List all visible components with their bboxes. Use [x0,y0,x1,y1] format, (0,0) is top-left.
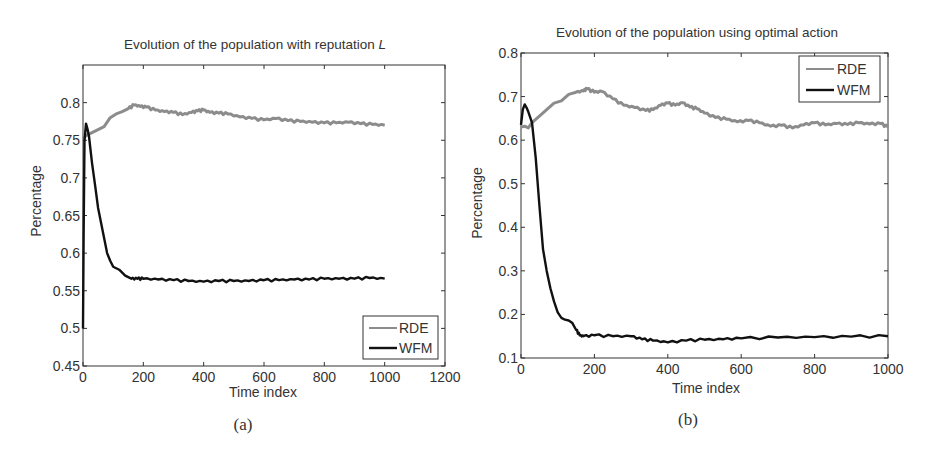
chart-a-legend-rde-label: RDE [399,320,429,336]
y-tick-label: 0.7 [499,89,519,105]
y-tick-label: 0.65 [53,208,80,224]
x-tick-label: 0 [517,361,525,377]
chart-a-ylabel: Percentage [28,165,44,237]
x-tick-label: 1000 [872,361,903,377]
x-tick-label: 800 [313,369,337,385]
chart-a-legend-wfm-label: WFM [399,340,432,356]
y-tick-label: 0.1 [499,350,519,366]
chart-a-xlabel: Time index [229,384,297,400]
y-tick-label: 0.2 [499,306,519,322]
chart-a-title: Evolution of the population with reputat… [124,37,386,52]
x-tick-label: 200 [132,369,156,385]
y-tick-label: 0.75 [53,132,80,148]
x-tick-label: 0 [79,369,87,385]
figure: Evolution of the population with reputat… [0,0,934,457]
x-tick-label: 200 [583,361,607,377]
chart-b-caption: (b) [678,410,698,429]
x-tick-label: 1000 [369,369,400,385]
chart-b-xlabel: Time index [672,380,740,396]
y-tick-label: 0.6 [61,245,81,261]
chart-b-ylabel: Percentage [469,167,485,239]
x-tick-label: 600 [252,369,276,385]
y-tick-label: 0.45 [53,358,80,374]
y-tick-label: 0.7 [61,170,81,186]
chart-b-series-wfm [521,104,888,342]
y-tick-label: 0.8 [499,45,519,61]
y-tick-label: 0.8 [61,95,81,111]
y-tick-label: 0.5 [499,176,519,192]
chart-b-legend: RDE WFM [799,56,880,102]
x-tick-label: 1200 [429,369,460,385]
y-tick-label: 0.5 [61,320,81,336]
x-tick-label: 400 [192,369,216,385]
chart-b: Evolution of the population using optima… [469,25,904,429]
chart-b-title: Evolution of the population using optima… [556,25,838,40]
chart-a-series-rde [83,105,385,139]
y-tick-label: 0.4 [499,219,519,235]
y-tick-label: 0.6 [499,132,519,148]
chart-b-legend-rde-label: RDE [837,61,867,77]
y-tick-label: 0.3 [499,263,519,279]
chart-a-caption: (a) [234,415,253,434]
chart-a-legend: RDE WFM [363,316,438,359]
chart-a-series-wfm [83,124,385,329]
chart-a: Evolution of the population with reputat… [28,37,461,434]
x-tick-label: 800 [803,361,827,377]
chart-b-legend-wfm-label: WFM [837,82,870,98]
x-tick-label: 600 [730,361,754,377]
y-tick-label: 0.55 [53,283,80,299]
x-tick-label: 400 [656,361,680,377]
